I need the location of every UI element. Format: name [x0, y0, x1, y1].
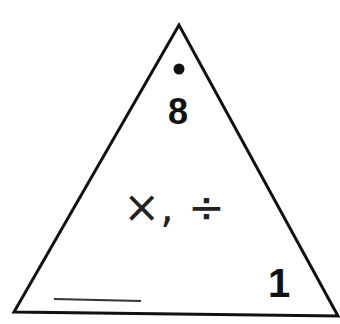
top-dot-marker [174, 64, 185, 75]
bottom-left-answer-blank[interactable] [54, 299, 141, 301]
fact-triangle-diagram: 8 ×, ÷ 1 [0, 0, 340, 324]
top-number: 8 [168, 91, 188, 132]
bottom-right-number: 1 [268, 261, 290, 305]
operations-label: ×, ÷ [123, 181, 225, 232]
